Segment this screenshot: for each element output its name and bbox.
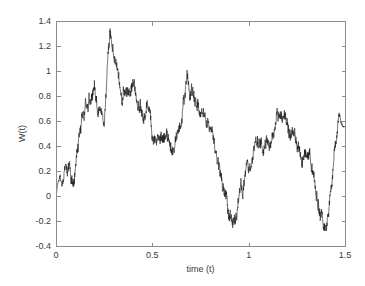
- y-tick-label: 0: [46, 191, 51, 201]
- plot-area-background: [56, 21, 345, 246]
- brownian-motion-chart: 00.511.5-0.4-0.200.20.40.60.811.21.4 tim…: [0, 0, 365, 286]
- figure-container: 00.511.5-0.4-0.200.20.40.60.811.21.4 tim…: [0, 0, 365, 286]
- y-tick-label: 1.2: [38, 41, 51, 51]
- y-tick-label: 0.4: [38, 141, 51, 151]
- y-tick-label: 1.4: [38, 16, 51, 26]
- y-tick-label: 0.6: [38, 116, 51, 126]
- y-tick-label: 0.2: [38, 166, 51, 176]
- x-tick-label: 0.5: [146, 250, 159, 260]
- y-tick-label: -0.4: [35, 241, 51, 251]
- y-axis-title: W(t): [17, 125, 27, 142]
- x-tick-label: 1.5: [339, 250, 352, 260]
- y-tick-label: -0.2: [35, 216, 51, 226]
- x-tick-label: 1: [246, 250, 251, 260]
- y-tick-label: 0.8: [38, 91, 51, 101]
- plot-background: [56, 21, 345, 246]
- y-tick-label: 1: [46, 66, 51, 76]
- x-axis-title: time (t): [187, 264, 215, 274]
- x-tick-label: 0: [53, 250, 58, 260]
